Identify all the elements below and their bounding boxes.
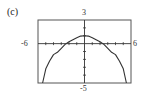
chart-plot xyxy=(0,0,145,98)
